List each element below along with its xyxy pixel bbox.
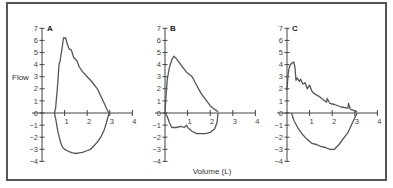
y-tick-label: 7: [279, 24, 283, 33]
y-axis-title: Flow: [12, 73, 29, 82]
y-tick-label: −4: [274, 157, 283, 166]
y-tick-label: −3: [274, 145, 283, 154]
y-tick-label: 2: [157, 84, 161, 93]
y-tick-label: −1: [152, 121, 161, 130]
inspiratory-curve: [292, 113, 358, 149]
y-tick-label: 7: [34, 24, 38, 33]
y-tick-label: 2: [279, 84, 283, 93]
y-tick-label: 1: [34, 97, 38, 106]
x-axis-title: Volume (L): [193, 167, 232, 176]
panel-b: −4−3−2−1012345671234B: [152, 24, 259, 166]
y-tick-label: 0: [34, 109, 38, 118]
y-tick-label: 6: [279, 36, 283, 45]
inspiratory-curve: [54, 113, 109, 154]
y-tick-label: 6: [34, 36, 38, 45]
y-tick-label: 3: [34, 72, 38, 81]
x-tick-label: 2: [332, 117, 336, 126]
expiratory-curve: [54, 38, 109, 113]
y-tick-label: 1: [157, 97, 161, 106]
x-tick-label: 1: [65, 117, 69, 126]
y-tick-label: 2: [34, 84, 38, 93]
x-tick-label: 4: [255, 117, 259, 126]
x-tick-label: 3: [355, 117, 359, 126]
y-tick-label: 3: [279, 72, 283, 81]
y-tick-label: −3: [152, 145, 161, 154]
y-tick-label: 3: [157, 72, 161, 81]
x-tick-label: 1: [310, 117, 314, 126]
y-tick-label: 0: [279, 109, 283, 118]
y-tick-label: 5: [34, 48, 38, 57]
x-tick-label: 2: [87, 117, 91, 126]
y-tick-label: −3: [29, 145, 38, 154]
y-tick-label: 4: [279, 60, 283, 69]
y-tick-label: −2: [152, 133, 161, 142]
panel-label: C: [292, 24, 298, 33]
y-tick-label: −1: [29, 121, 38, 130]
y-tick-label: 5: [157, 48, 161, 57]
y-tick-label: −1: [274, 121, 283, 130]
y-tick-label: 7: [157, 24, 161, 33]
y-tick-label: 5: [279, 48, 283, 57]
expiratory-curve: [165, 56, 218, 113]
y-tick-label: 0: [157, 109, 161, 118]
x-tick-label: 2: [210, 117, 214, 126]
y-tick-label: 4: [157, 60, 161, 69]
y-tick-label: −4: [29, 157, 38, 166]
x-tick-label: 4: [377, 117, 381, 126]
x-tick-label: 1: [188, 117, 192, 126]
y-tick-label: 4: [34, 60, 38, 69]
panel-label: B: [170, 24, 176, 33]
y-tick-label: 6: [157, 36, 161, 45]
y-tick-label: −4: [152, 157, 161, 166]
y-tick-label: −2: [274, 133, 283, 142]
flow-volume-chart: Flow Volume (L) −4−3−2−1012345671234A−4−…: [0, 0, 393, 188]
panel-c: −4−3−2−1012345671234C: [274, 24, 381, 166]
x-tick-label: 3: [233, 117, 237, 126]
y-tick-label: −2: [29, 133, 38, 142]
expiratory-curve: [287, 62, 357, 112]
x-tick-label: 4: [132, 117, 136, 126]
panel-label: A: [47, 24, 53, 33]
x-tick-label: 3: [110, 117, 114, 126]
panel-a: −4−3−2−1012345671234A: [29, 24, 136, 166]
y-tick-label: 1: [279, 97, 283, 106]
